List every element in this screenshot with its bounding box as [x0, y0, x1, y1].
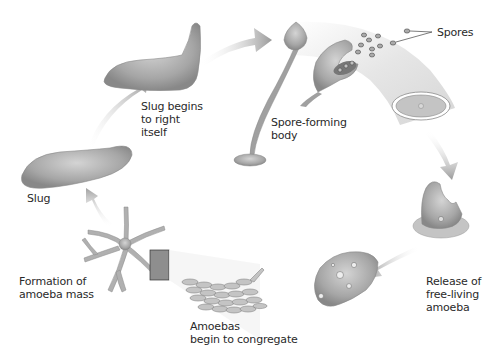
diagram-canvas: [0, 0, 497, 360]
arrow-mass-to-slug: [86, 188, 112, 228]
label-spore-forming-body: Spore-forming body: [271, 116, 347, 142]
release-amoeba-illustration: [413, 182, 469, 238]
slug-righting-illustration: [104, 23, 201, 91]
label-slug: Slug: [27, 192, 50, 205]
spores-leader-line: [410, 31, 432, 32]
slime-mold-life-cycle-diagram: Spores Slug begins to right itself Spore…: [0, 0, 497, 360]
arrow-spores-to-release: [426, 130, 458, 180]
label-amoebas-congregate: Amoebas begin to congregate: [190, 320, 298, 346]
label-spores: Spores: [437, 26, 473, 39]
slug-illustration: [21, 146, 132, 188]
arrow-righting-to-sporebody: [200, 28, 272, 66]
arrow-slug-to-righting: [88, 80, 148, 150]
label-release-amoeba: Release of free-living amoeba: [426, 275, 481, 314]
label-slug-righting: Slug begins to right itself: [141, 100, 203, 139]
free-amoeba-illustration: [314, 252, 378, 307]
label-amoeba-mass: Formation of amoeba mass: [19, 275, 94, 301]
